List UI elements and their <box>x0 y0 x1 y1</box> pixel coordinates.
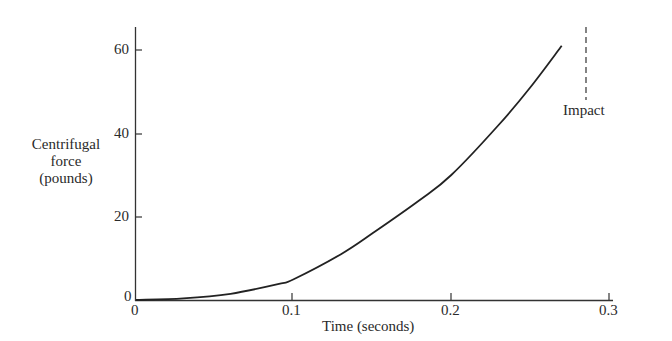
x-ticks <box>292 293 609 300</box>
x-axis-label: Time (seconds) <box>322 318 414 335</box>
force-curve <box>136 46 562 300</box>
y-tick-label: 40 <box>114 125 129 142</box>
y-tick-label: 20 <box>114 208 129 225</box>
y-tick-label: 60 <box>114 41 129 58</box>
x-tick-label: 0.3 <box>599 302 618 319</box>
x-tick-label: 0 <box>131 302 139 319</box>
x-tick-label: 0.1 <box>282 302 301 319</box>
y-axis-label: Centrifugal force (pounds) <box>20 136 112 187</box>
impact-annotation: Impact <box>563 102 605 119</box>
x-tick-label: 0.2 <box>441 302 460 319</box>
